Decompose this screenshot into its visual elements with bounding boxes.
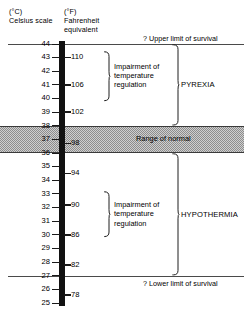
celsius-tick-label: 27 (4, 272, 50, 280)
zone-label-hypothermia: HYPOTHERMIA (181, 210, 238, 219)
celsius-label-wrap: 26 (0, 285, 50, 293)
celsius-scale-heading: (°C) Celsius scale (9, 7, 53, 25)
celsius-tick (52, 289, 60, 290)
brace-shape (104, 191, 110, 237)
fahrenheit-tick (64, 264, 71, 265)
celsius-label-wrap: 35 (0, 162, 50, 170)
zone-label-pyrexia: PYREXIA (181, 80, 215, 89)
celsius-tick (52, 275, 60, 276)
celsius-tick (52, 125, 60, 126)
celsius-tick-label: 39 (4, 108, 50, 116)
fahrenheit-tick-label: 82 (71, 261, 79, 269)
celsius-tick (52, 166, 60, 167)
celsius-tick (52, 262, 60, 263)
celsius-tick-label: 36 (4, 149, 50, 157)
celsius-tick-label: 28 (4, 258, 50, 266)
fahrenheit-tick-label: 94 (71, 169, 79, 177)
celsius-tick (52, 112, 60, 113)
celsius-label-wrap: 36 (0, 149, 50, 157)
fahrenheit-tick-label: 90 (71, 201, 79, 209)
celsius-tick-label: 38 (4, 122, 50, 130)
celsius-label-wrap: 38 (0, 122, 50, 130)
celsius-tick-label: 43 (4, 53, 50, 61)
celsius-tick-label: 31 (4, 217, 50, 225)
impairment-upper-label: Impairment of temperature regulation (114, 62, 159, 90)
celsius-tick-label: 32 (4, 203, 50, 211)
celsius-label-wrap: 25 (0, 299, 50, 307)
celsius-tick-label: 33 (4, 190, 50, 198)
celsius-label-wrap: 33 (0, 190, 50, 198)
celsius-label-wrap: 43 (0, 53, 50, 61)
fahrenheit-tick-label: 78 (71, 291, 79, 299)
celsius-tick-label: 44 (4, 40, 50, 48)
celsius-tick (52, 193, 60, 194)
celsius-tick-label: 26 (4, 285, 50, 293)
fahrenheit-tick-label: 110 (71, 53, 83, 61)
fahrenheit-equivalent-heading: (°F) Fahrenheit equivalent (64, 7, 99, 35)
celsius-label-wrap: 27 (0, 272, 50, 280)
celsius-label-wrap: 39 (0, 108, 50, 116)
celsius-tick-label: 25 (4, 299, 50, 307)
celsius-tick-label: 40 (4, 94, 50, 102)
fahrenheit-tick (64, 57, 71, 58)
fahrenheit-tick (64, 294, 71, 295)
fahrenheit-tick (64, 204, 71, 205)
celsius-label-wrap: 30 (0, 231, 50, 239)
fahrenheit-tick (64, 84, 71, 85)
celsius-label-wrap: 34 (0, 176, 50, 184)
celsius-tick (52, 180, 60, 181)
temperature-scale-figure: (°C) Celsius scale (°F) Fahrenheit equiv… (0, 0, 244, 323)
celsius-tick (52, 71, 60, 72)
brace-shape (104, 51, 110, 101)
brace-shape (172, 153, 179, 276)
celsius-tick-label: 37 (4, 135, 50, 143)
fahrenheit-tick-label: 98 (71, 139, 79, 147)
fahrenheit-tick-label: 86 (71, 231, 79, 239)
celsius-label-wrap: 37 (0, 135, 50, 143)
fahrenheit-tick (64, 111, 71, 112)
celsius-label-wrap: 42 (0, 67, 50, 75)
celsius-tick (52, 44, 60, 45)
impairment-lower-label: Impairment of temperature regulation (114, 200, 159, 228)
celsius-tick (52, 207, 60, 208)
celsius-tick (52, 139, 60, 140)
celsius-tick-label: 30 (4, 231, 50, 239)
celsius-tick-label: 41 (4, 81, 50, 89)
celsius-tick-label: 34 (4, 176, 50, 184)
celsius-tick (52, 84, 60, 85)
survival-limit-label-upper: ? Upper limit of survival (143, 35, 218, 43)
celsius-label-wrap: 44 (0, 40, 50, 48)
range-of-normal-label: Range of normal (136, 135, 191, 143)
celsius-tick-label: 35 (4, 162, 50, 170)
fahrenheit-tick-label: 106 (71, 81, 84, 89)
celsius-label-wrap: 40 (0, 94, 50, 102)
celsius-tick (52, 303, 60, 304)
celsius-label-wrap: 31 (0, 217, 50, 225)
celsius-tick-label: 42 (4, 67, 50, 75)
celsius-tick (52, 221, 60, 222)
survival-limit-label-lower: ? Lower limit of survival (143, 280, 218, 288)
celsius-tick (52, 153, 60, 154)
celsius-label-wrap: 32 (0, 203, 50, 211)
fahrenheit-tick (64, 173, 71, 174)
fahrenheit-tick (64, 143, 71, 144)
celsius-label-wrap: 28 (0, 258, 50, 266)
celsius-tick (52, 248, 60, 249)
celsius-tick (52, 234, 60, 235)
celsius-label-wrap: 29 (0, 244, 50, 252)
celsius-tick (52, 98, 60, 99)
brace-shape (172, 44, 179, 126)
fahrenheit-tick (64, 234, 71, 235)
celsius-tick (52, 57, 60, 58)
celsius-label-wrap: 41 (0, 81, 50, 89)
celsius-tick-label: 29 (4, 244, 50, 252)
fahrenheit-tick-label: 102 (71, 108, 84, 116)
